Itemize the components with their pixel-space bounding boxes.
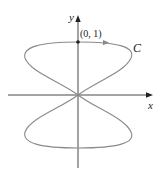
direction-arrow-icon bbox=[103, 40, 109, 45]
point-0-1 bbox=[76, 40, 80, 44]
y-axis-arrow-icon bbox=[75, 15, 80, 22]
curve-label: C bbox=[133, 42, 141, 54]
x-axis-label: x bbox=[148, 100, 153, 111]
point-label: (0, 1) bbox=[80, 29, 102, 39]
y-axis-label: y bbox=[69, 12, 74, 23]
x-axis-arrow-icon bbox=[146, 92, 153, 97]
parametric-curve-diagram bbox=[0, 0, 168, 175]
